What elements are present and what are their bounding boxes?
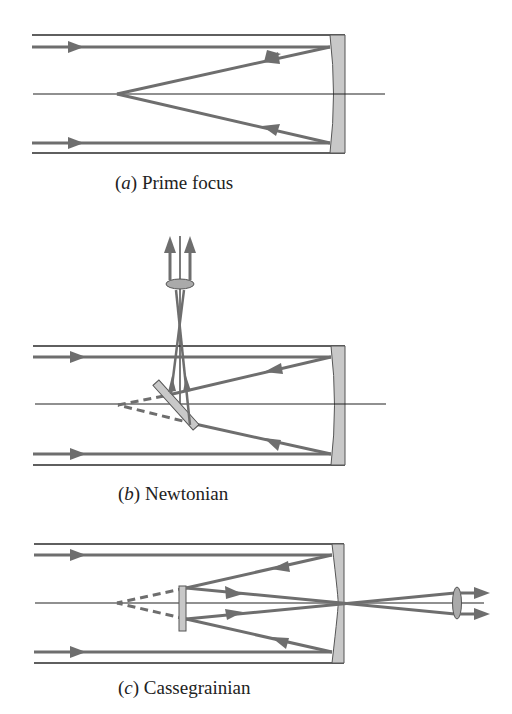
arrow-icon	[474, 587, 490, 599]
reflected-ray-bottom	[186, 619, 332, 652]
arrow-icon	[70, 351, 86, 363]
telescope-diagram	[0, 0, 512, 714]
arrow-icon	[68, 41, 84, 53]
panel-newtonian	[33, 236, 386, 465]
arrow-up-icon	[184, 236, 196, 253]
arrow-icon	[262, 124, 280, 136]
reflected-ray-top	[117, 47, 330, 94]
arrow-icon	[168, 376, 176, 392]
arrow-icon	[70, 646, 86, 658]
caption-cassegrainian: (c) Cassegrainian	[118, 677, 250, 699]
arrow-icon	[264, 438, 281, 451]
eyepiece-lens	[166, 279, 194, 289]
panel-cassegrainian	[34, 544, 490, 663]
reflected-ray-top	[186, 555, 332, 588]
arrow-up-icon	[164, 236, 176, 253]
virtual-ray	[117, 588, 186, 603]
arrow-icon	[70, 549, 86, 561]
virtual-ray	[117, 603, 186, 619]
arrow-icon	[68, 137, 84, 149]
arrow-icon	[474, 608, 490, 620]
arrow-icon	[271, 637, 289, 649]
reflected-ray-bottom	[195, 424, 331, 454]
secondary-mirror	[179, 586, 186, 631]
primary-mirror	[331, 346, 345, 465]
arrow-icon	[70, 448, 86, 460]
caption-prime-focus: (a) Prime focus	[115, 172, 233, 194]
arrow-icon	[271, 561, 290, 572]
diagonal-flat-mirror	[153, 380, 199, 430]
caption-newtonian: (b) Newtonian	[118, 483, 228, 505]
panel-prime-focus	[32, 35, 385, 153]
reflected-ray-bottom	[117, 94, 330, 143]
